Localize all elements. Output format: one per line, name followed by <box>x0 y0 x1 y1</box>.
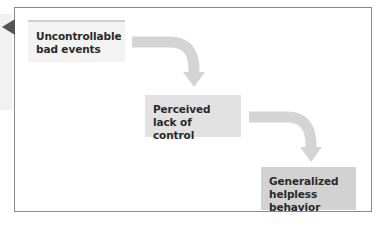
node-label-line1: Generalized <box>269 175 348 188</box>
node-label-line2: helpless behavior <box>269 188 348 214</box>
node-label-line2: bad events <box>36 43 117 56</box>
node-uncontrollable-bad-events: Uncontrollable bad events <box>28 20 125 62</box>
node-label-line1: Perceived <box>153 103 233 116</box>
curved-arrow-icon <box>130 34 210 90</box>
pointer-triangle-icon <box>2 19 15 35</box>
node-label-line1: Uncontrollable <box>36 30 117 43</box>
curved-arrow-icon <box>247 109 327 165</box>
node-perceived-lack-of-control: Perceived lack of control <box>145 95 241 137</box>
node-label-line2: lack of control <box>153 116 233 142</box>
node-generalized-helpless-behavior: Generalized helpless behavior <box>261 167 356 210</box>
